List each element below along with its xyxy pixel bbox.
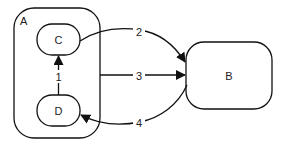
state-d-label: D	[55, 105, 63, 117]
edge-3-label: 3	[136, 70, 142, 82]
state-a-label: A	[20, 15, 28, 27]
state-c-label: C	[55, 34, 63, 46]
edge-1-label: 1	[55, 71, 61, 83]
edge-4-label: 4	[136, 117, 142, 129]
state-b-label: B	[225, 70, 232, 82]
edge-2-label: 2	[136, 26, 142, 38]
statechart-diagram: A C D B 1 2 3 4	[0, 0, 284, 148]
